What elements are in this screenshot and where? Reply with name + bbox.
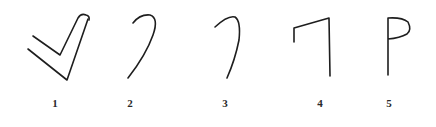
glyph-2-hook-icon bbox=[128, 15, 155, 78]
glyph-label-2: 2 bbox=[120, 96, 140, 110]
glyph-1-check-mark-icon bbox=[28, 14, 89, 80]
handwritten-glyphs-figure: 1 2 3 4 5 bbox=[0, 0, 436, 127]
glyph-4-seven-icon bbox=[294, 18, 330, 76]
glyph-3-hook-icon bbox=[215, 17, 240, 78]
glyph-5-p-icon bbox=[388, 18, 410, 75]
glyph-label-1: 1 bbox=[45, 96, 65, 110]
glyph-label-3: 3 bbox=[215, 96, 235, 110]
glyph-label-5: 5 bbox=[379, 96, 399, 110]
glyph-label-4: 4 bbox=[310, 96, 330, 110]
